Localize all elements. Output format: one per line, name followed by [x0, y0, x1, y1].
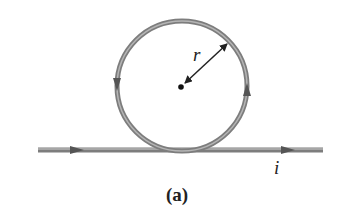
loop-arrow-up-icon	[243, 83, 251, 96]
figure-caption: (a)	[166, 184, 188, 206]
radius-arrow-icon	[185, 44, 227, 83]
loop-arrow-down-icon	[113, 78, 121, 91]
wire-loop-diagram	[0, 0, 350, 214]
radius-label: r	[193, 44, 200, 66]
current-label: i	[274, 157, 279, 179]
current-arrow-icon	[70, 146, 84, 154]
current-arrow-icon	[281, 146, 295, 154]
center-dot	[178, 84, 184, 90]
